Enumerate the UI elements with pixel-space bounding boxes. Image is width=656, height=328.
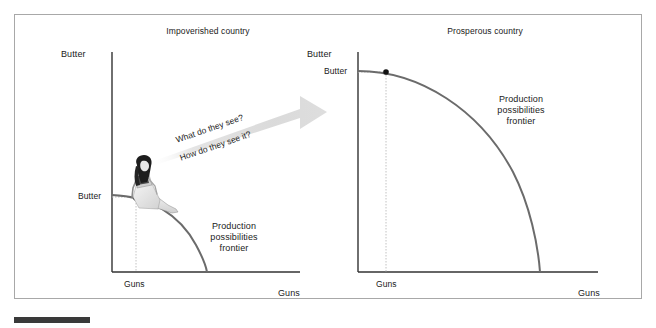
panel-impoverished-title: Impoverished country: [163, 26, 253, 36]
panel-impoverished-ppf-label: Production possibilities frontier: [197, 221, 271, 254]
panel-prosperous-x-axis-label: Guns: [578, 288, 600, 298]
figure-number-bar: [14, 317, 90, 323]
panel-impoverished-y-axis-label: Butter: [61, 49, 86, 59]
panel-prosperous-butter-tick-label: Butter: [324, 66, 347, 76]
panel-impoverished-guns-tick-label: Guns: [124, 279, 145, 289]
panel-impoverished-x-axis-label: Guns: [278, 288, 300, 298]
panel-prosperous-guns-tick-label: Guns: [376, 279, 397, 289]
ppf-label-line-3: frontier: [197, 243, 271, 254]
ppf-label-line-2: possibilities: [197, 232, 271, 243]
panel-prosperous-ppf-label: Production possibilities frontier: [484, 94, 558, 127]
ppf-label-line-2: possibilities: [484, 105, 558, 116]
panel-impoverished-butter-tick-label: Butter: [78, 191, 101, 201]
panel-prosperous-y-axis-label: Butter: [307, 49, 332, 59]
ppf-label-line-1: Production: [197, 221, 271, 232]
ppf-label-line-1: Production: [484, 94, 558, 105]
ppf-label-line-3: frontier: [484, 116, 558, 127]
panel-prosperous-title: Prosperous country: [440, 26, 530, 36]
figure-root: Impoverished country Butter Butter Guns …: [0, 0, 656, 328]
